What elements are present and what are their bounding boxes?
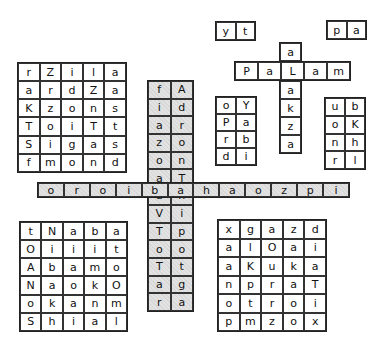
letter-cell: l [106,313,127,331]
letter-cell: a [347,21,367,39]
letter-cell: i [236,148,256,165]
letter-cell: n [218,276,240,295]
palam-row: PaLam [234,61,351,81]
top-left-letter-grid: rZilaardZaKzonsToiTtSigasfmond [17,62,127,173]
letter-cell: a [84,313,105,331]
letter-cell: n [83,99,105,117]
letter-cell: a [104,63,126,81]
letter-cell: O [261,239,283,258]
letter-cell: i [171,205,194,223]
letter-cell: d [216,148,236,165]
letter-cell: b [142,183,168,197]
letter-cell: k [84,276,105,294]
letter-cell: a [219,183,245,197]
letter-cell: g [61,136,83,154]
letter-cell: N [20,276,41,294]
letter-cell: r [261,276,283,295]
letter-cell: i [41,240,62,258]
letter-cell: a [283,239,305,258]
letter-cell: t [236,22,256,40]
letter-cell: f [148,81,171,99]
ub-letter-grid: uboKnhrl [324,97,366,170]
letter-cell: i [61,117,83,135]
letter-cell: i [40,136,62,154]
letter-cell: a [104,81,126,99]
letter-cell: n [325,134,345,152]
letter-cell: a [280,135,301,153]
letter-cell: o [325,116,345,134]
letter-cell: i [148,99,171,117]
letter-cell: o [20,295,41,313]
letter-cell: Z [40,63,62,81]
letter-cell: i [116,183,142,197]
small-box-yt: yt [215,21,256,41]
letter-cell: V [148,205,171,223]
letter-cell: r [171,116,194,134]
letter-cell: r [148,293,171,311]
letter-cell: o [148,152,171,170]
letter-cell: d [104,154,126,172]
letter-cell: p [240,276,262,295]
letter-cell: o [283,313,305,332]
letter-cell: o [216,97,236,114]
letter-cell: h [41,313,62,331]
letter-cell: a [83,136,105,154]
letter-cell: n [171,152,194,170]
letter-cell: a [63,295,84,313]
letter-cell: t [104,117,126,135]
letter-cell: S [20,313,41,331]
letter-cell: t [171,258,194,276]
letter-cell: m [40,154,62,172]
letter-cell: K [240,257,262,276]
letter-cell: o [40,117,62,135]
letter-cell: t [240,294,262,313]
letter-cell: L [281,62,304,80]
letter-cell: i [84,240,105,258]
letter-cell: o [245,183,271,197]
palam-above-cell: a [279,42,302,62]
letter-cell: o [171,134,194,152]
letter-cell: a [106,222,127,240]
small-box-pa: pa [326,20,367,40]
letter-cell: i [63,240,84,258]
letter-cell: o [61,154,83,172]
letter-cell: h [345,134,365,152]
letter-cell: p [171,223,194,241]
letter-cell: d [171,99,194,117]
letter-cell: t [106,240,127,258]
letter-cell: O [106,276,127,294]
letter-cell: r [325,151,345,169]
letter-cell: b [236,131,256,148]
letter-cell: a [168,183,194,197]
letter-cell: a [280,81,301,99]
letter-cell: i [304,239,326,258]
letter-cell: a [148,116,171,134]
letter-cell: s [104,99,126,117]
letter-cell: i [63,313,84,331]
letter-cell: b [345,98,365,116]
letter-cell: m [327,62,350,80]
letter-cell: o [283,294,305,313]
letter-cell: i [61,63,83,81]
letter-cell: a [18,81,40,99]
letter-cell: l [240,239,262,258]
letter-cell: h [193,183,219,197]
letter-cell: l [345,151,365,169]
letter-cell: b [41,258,62,276]
letter-cell: a [261,220,283,239]
oy-letter-grid: oYParbdi [215,96,257,166]
letter-cell: k [280,99,301,117]
letter-cell: k [283,257,305,276]
letter-cell: N [41,222,62,240]
letter-cell: a [283,276,305,295]
letter-cell: A [20,258,41,276]
letter-cell: b [84,222,105,240]
letter-cell: Y [236,97,256,114]
letter-cell: a [218,257,240,276]
letter-cell: o [38,183,64,197]
letter-cell: o [218,294,240,313]
letter-cell: i [323,183,349,197]
letter-cell: a [148,276,171,294]
letter-cell: a [63,222,84,240]
letter-cell: a [63,258,84,276]
